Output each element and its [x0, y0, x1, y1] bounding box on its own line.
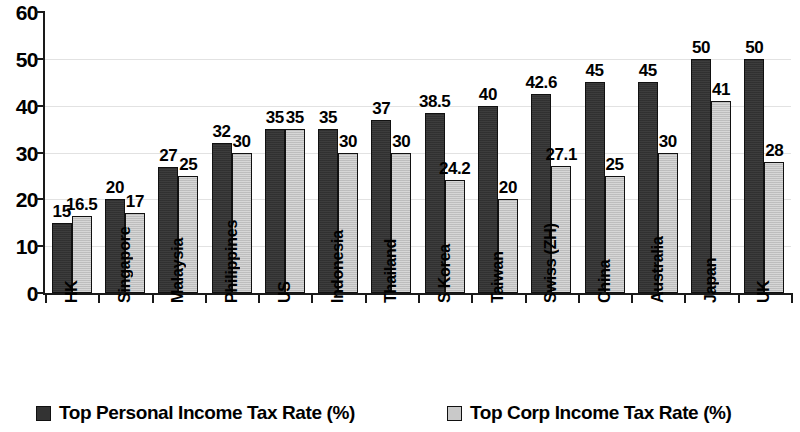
x-axis-category-label: Indonesia — [330, 230, 346, 303]
x-axis-line — [43, 293, 791, 295]
x-axis-category-labels: HKSingaporeMalaysiaPhilippinesUSIndonesi… — [0, 303, 800, 395]
bar[interactable] — [764, 162, 784, 293]
bar-value-label: 35 — [309, 109, 347, 126]
x-axis-category-label: Singapore — [117, 227, 133, 303]
x-axis-category-label: Taiwan — [490, 251, 506, 303]
bar-value-label: 45 — [576, 62, 614, 79]
y-axis-tick-label: 20 — [16, 189, 38, 210]
y-axis-tick-label: 50 — [16, 48, 38, 69]
bar-value-label: 45 — [629, 62, 667, 79]
bar-value-label: 42.6 — [522, 74, 560, 91]
x-axis-category-label: S Korea — [437, 244, 453, 303]
bar-value-label: 24.2 — [436, 160, 474, 177]
bar-group: 3535 — [265, 12, 305, 293]
bar-group: 5041 — [691, 12, 731, 293]
y-axis-tick — [36, 292, 45, 294]
bar-value-label: 30 — [382, 133, 420, 150]
x-axis-tick — [684, 293, 686, 303]
y-axis-tick-labels: 0102030405060 — [0, 0, 38, 300]
bar-value-label: 37 — [362, 100, 400, 117]
chart-legend: Top Personal Income Tax Rate (%) Top Cor… — [0, 398, 800, 432]
x-axis-tick — [578, 293, 580, 303]
bar-value-label: 40 — [469, 86, 507, 103]
legend-item-corp: Top Corp Income Tax Rate (%) — [447, 402, 732, 424]
bar-value-label: 30 — [223, 133, 261, 150]
bar-value-label: 25 — [169, 156, 207, 173]
x-axis-tick — [98, 293, 100, 303]
bar-value-label: 50 — [682, 39, 720, 56]
bar[interactable] — [744, 59, 764, 293]
dark-square-icon — [36, 406, 51, 421]
y-axis-tick-label: 60 — [16, 2, 38, 23]
y-axis-tick-label: 40 — [16, 95, 38, 116]
plot-area: 1516.520172725323035353530373038.524.240… — [45, 12, 791, 293]
bar[interactable] — [285, 129, 305, 293]
x-axis-category-label: Japan — [703, 258, 719, 303]
x-axis-category-label: China — [597, 260, 613, 303]
bar-group: 1516.5 — [52, 12, 92, 293]
x-axis-tick — [205, 293, 207, 303]
x-axis-tick — [791, 293, 793, 303]
x-axis-category-label: Thailand — [383, 239, 399, 303]
bar-value-label: 20 — [489, 179, 527, 196]
legend-item-personal: Top Personal Income Tax Rate (%) — [36, 402, 355, 424]
legend-label-personal: Top Personal Income Tax Rate (%) — [59, 402, 355, 424]
bar-value-label: 30 — [649, 133, 687, 150]
y-axis-tick — [36, 198, 45, 200]
y-axis-tick — [36, 105, 45, 107]
y-axis-tick-label: 10 — [16, 236, 38, 257]
x-axis-category-label: Malaysia — [170, 238, 186, 303]
x-axis-tick — [365, 293, 367, 303]
bar-value-label: 27.1 — [542, 146, 580, 163]
bar-group: 5028 — [744, 12, 784, 293]
y-axis-tick — [36, 58, 45, 60]
x-axis-tick — [258, 293, 260, 303]
bar-value-label: 30 — [329, 133, 367, 150]
y-axis-tick — [36, 11, 45, 13]
bar-value-label: 16.5 — [63, 196, 101, 213]
plot-wrapper: 0102030405060 1516.520172725323035353530… — [0, 0, 800, 300]
bar-group: 4525 — [585, 12, 625, 293]
x-axis-category-label: Australia — [650, 236, 666, 303]
x-axis-tick — [418, 293, 420, 303]
y-axis-tick — [36, 245, 45, 247]
x-axis-tick — [45, 293, 47, 303]
bar-value-label: 28 — [755, 142, 793, 159]
x-axis-category-label: Swiss (ZH) — [543, 223, 559, 303]
bars-layer: 1516.520172725323035353530373038.524.240… — [45, 12, 791, 293]
y-axis-tick-label: 30 — [16, 142, 38, 163]
bar-value-label: 41 — [702, 81, 740, 98]
x-axis-category-label: Philippines — [224, 220, 240, 303]
bar-value-label: 25 — [596, 156, 634, 173]
x-axis-tick — [738, 293, 740, 303]
bar-value-label: 17 — [116, 193, 154, 210]
y-axis-tick — [36, 152, 45, 154]
bar-value-label: 38.5 — [416, 93, 454, 110]
x-axis-category-label: UK — [756, 280, 772, 303]
bar-chart: 0102030405060 1516.520172725323035353530… — [0, 0, 800, 432]
x-axis-category-label: HK — [64, 280, 80, 303]
x-axis-tick — [525, 293, 527, 303]
light-square-icon — [447, 406, 462, 421]
bar-value-label: 50 — [735, 39, 773, 56]
x-axis-tick — [311, 293, 313, 303]
x-axis-category-label: US — [277, 281, 293, 303]
bar[interactable] — [265, 129, 285, 293]
x-axis-tick — [471, 293, 473, 303]
x-axis-tick — [631, 293, 633, 303]
legend-label-corp: Top Corp Income Tax Rate (%) — [470, 402, 732, 424]
x-axis-tick — [152, 293, 154, 303]
